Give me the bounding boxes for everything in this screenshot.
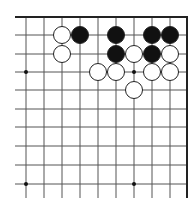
go-board-grid[interactable]: [0, 0, 195, 210]
white-stone[interactable]: [162, 46, 179, 63]
black-stone[interactable]: [72, 27, 89, 44]
star-point: [24, 182, 28, 186]
white-stone[interactable]: [126, 46, 143, 63]
white-stone[interactable]: [162, 64, 179, 81]
star-point: [24, 70, 28, 74]
go-board[interactable]: [0, 0, 195, 210]
white-stone[interactable]: [54, 27, 71, 44]
black-stone[interactable]: [144, 27, 161, 44]
star-point: [132, 182, 136, 186]
black-stone[interactable]: [108, 27, 125, 44]
black-stone[interactable]: [108, 46, 125, 63]
black-stone[interactable]: [144, 46, 161, 63]
black-stone[interactable]: [162, 27, 179, 44]
white-stone[interactable]: [54, 46, 71, 63]
star-point: [132, 70, 136, 74]
white-stone[interactable]: [126, 82, 143, 99]
white-stone[interactable]: [144, 64, 161, 81]
white-stone[interactable]: [108, 64, 125, 81]
white-stone[interactable]: [90, 64, 107, 81]
